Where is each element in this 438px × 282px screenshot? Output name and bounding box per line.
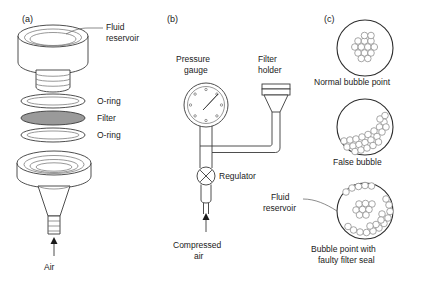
panel-a-label: (a) (22, 14, 33, 24)
caption-faulty-line2: faulty filter seal (318, 255, 375, 265)
regulator-valve (197, 150, 215, 214)
pressure-gauge-label-line2: gauge (184, 65, 208, 75)
fluid-reservoir-c-label-line1: Fluid (271, 192, 290, 202)
caption-false-bubble: False bubble (333, 157, 382, 167)
panel-b-label: (b) (167, 14, 178, 24)
filter-label: Filter (97, 113, 116, 123)
bubble-view-normal: Normal bubble point (314, 20, 393, 87)
pressure-gauge (184, 83, 228, 150)
panel-b: (b) Pressure gauge Filter holder (167, 14, 290, 261)
caption-faulty-line1: Bubble point with (311, 244, 376, 254)
filter-holder-label-line1: Filter (258, 54, 277, 64)
fluid-reservoir-label-line2: reservoir (106, 33, 139, 43)
fluid-reservoir-label-line1: Fluid (106, 22, 125, 32)
filter-holder (262, 84, 290, 140)
pressure-gauge-label-line1: Pressure (176, 54, 210, 64)
fluid-reservoir-c-label-line2: reservoir (263, 203, 296, 213)
compressed-air-label-line1: Compressed (173, 240, 221, 250)
panel-c: (c) Normal bubble point (263, 14, 393, 265)
air-label: Air (44, 262, 55, 272)
filter-holder-label-line2: holder (258, 65, 282, 75)
oring-bottom-label: O-ring (97, 130, 121, 140)
panel-a: (a) Fluid reservoir O-ring Filter (17, 14, 139, 272)
caption-normal-bubble-point: Normal bubble point (314, 77, 391, 87)
panel-c-label: (c) (324, 14, 335, 24)
connecting-pipe (200, 140, 280, 153)
compressed-air-label-line2: air (194, 251, 204, 261)
figure-canvas: (a) Fluid reservoir O-ring Filter (0, 0, 438, 282)
oring-top-part (21, 94, 85, 108)
oring-bottom-part (21, 128, 85, 142)
figure-root: (a) Fluid reservoir O-ring Filter (0, 0, 438, 282)
regulator-label: Regulator (219, 171, 256, 181)
bubble-view-faulty: Fluid reservoir Bubble point with faulty… (263, 182, 393, 265)
funnel-base-part (17, 151, 91, 256)
oring-top-label: O-ring (97, 96, 121, 106)
fluid-reservoir-part (18, 25, 103, 92)
filter-part (21, 111, 85, 125)
bubble-view-false: False bubble (333, 99, 393, 167)
compressed-air-arrow (203, 213, 210, 232)
